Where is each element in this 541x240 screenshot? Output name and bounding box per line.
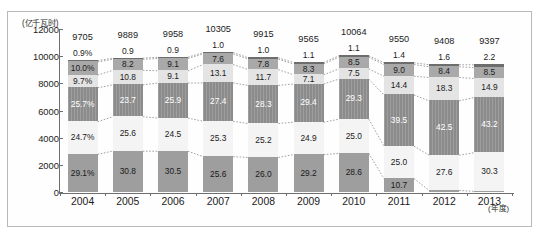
- bar-segment-label: 28.6: [346, 168, 362, 176]
- bar-segment-label: 10.0%: [71, 64, 95, 72]
- stacked-bar[interactable]: 8.210.823.725.630.8: [113, 58, 143, 192]
- bar-total-label: 9397: [461, 36, 517, 46]
- bar-segment-label: 9.0: [393, 66, 405, 74]
- bar-segment[interactable]: 9.0: [384, 64, 414, 76]
- bar-column[interactable]: 9.19.125.924.530.599580.9: [158, 29, 188, 192]
- bar-column[interactable]: 8.57.529.325.028.6100641.1: [339, 29, 369, 192]
- bar-segment-label: 7.5: [348, 69, 360, 77]
- x-tick-mark: [60, 193, 61, 196]
- bar-segment-label: 39.5: [391, 116, 407, 124]
- bar-segment[interactable]: 8.4: [429, 66, 459, 77]
- stacked-bar[interactable]: 8.57.529.325.028.6: [339, 55, 369, 192]
- bar-segment[interactable]: 9.1: [158, 70, 188, 82]
- bar-segment[interactable]: 10.0%: [68, 61, 98, 74]
- bar-segment[interactable]: 39.5: [384, 94, 414, 145]
- bar-segment[interactable]: 10.8: [113, 70, 143, 85]
- bar-segment[interactable]: 9.7%: [68, 75, 98, 88]
- bar-segment[interactable]: 8.5: [339, 57, 369, 69]
- x-tick-mark: [196, 193, 197, 196]
- bar-segment[interactable]: 24.7%: [68, 121, 98, 154]
- bar-segment[interactable]: [429, 190, 459, 192]
- bar-segment[interactable]: 8.3: [294, 64, 324, 75]
- bar-segment-label: 7.8: [258, 60, 270, 68]
- bar-segment[interactable]: 24.5: [158, 118, 188, 151]
- x-tick-mark: [512, 193, 513, 196]
- bar-segment-label: 10.8: [120, 73, 136, 81]
- bar-segment[interactable]: 28.3: [248, 85, 278, 123]
- bar-segment[interactable]: 25.6: [203, 156, 233, 192]
- bar-segment[interactable]: 9.1: [158, 58, 188, 70]
- bar-segment[interactable]: 27.6: [429, 155, 459, 190]
- bar-column[interactable]: 8.210.823.725.630.898890.9: [113, 29, 143, 192]
- bar-column[interactable]: 9.014.439.525.010.795501.4: [384, 29, 414, 192]
- bar-segment[interactable]: 30.5: [158, 151, 188, 192]
- bar-segment[interactable]: 14.4: [384, 76, 414, 95]
- bar-segment[interactable]: 11.7: [248, 69, 278, 85]
- bar-segment[interactable]: [474, 191, 504, 192]
- stacked-bar[interactable]: 8.514.943.230.3: [474, 64, 504, 192]
- bar-segment-label: 25.3: [210, 134, 226, 142]
- bar-segment[interactable]: 27.4: [203, 82, 233, 120]
- bar-segment[interactable]: 8.5: [474, 67, 504, 78]
- bar-segment-label: 25.9: [165, 96, 181, 104]
- bar-segment-label: 43.2: [481, 120, 497, 128]
- bar-segment[interactable]: 29.4: [294, 84, 324, 122]
- bar-segment[interactable]: 7.6: [203, 53, 233, 64]
- bar-segment[interactable]: 28.6: [339, 153, 369, 192]
- bar-segment[interactable]: 7.5: [339, 68, 369, 78]
- bar-segment-label: 27.6: [436, 168, 452, 176]
- bar-segment[interactable]: 13.1: [203, 64, 233, 82]
- stacked-bar[interactable]: 7.811.728.325.226.0: [248, 57, 278, 192]
- bar-segment[interactable]: 8.2: [113, 59, 143, 70]
- bar-segment[interactable]: 23.7: [113, 84, 143, 116]
- bar-segment[interactable]: 7.1: [294, 74, 324, 83]
- bar-segment[interactable]: 43.2: [474, 97, 504, 152]
- bar-column[interactable]: 8.514.943.230.393972.2: [474, 29, 504, 192]
- bar-column[interactable]: 8.418.342.527.694081.6: [429, 29, 459, 192]
- bar-segment[interactable]: 25.6: [113, 116, 143, 150]
- bar-segment-label: 18.3: [436, 84, 452, 92]
- bar-segment-label: 29.1%: [71, 169, 95, 177]
- bar-segment[interactable]: 25.7%: [68, 87, 98, 121]
- bar-segment-label: 27.4: [210, 97, 226, 105]
- bar-segment[interactable]: 24.9: [294, 122, 324, 154]
- stacked-bar[interactable]: 8.37.129.424.929.2: [294, 62, 324, 192]
- stacked-bar[interactable]: 8.418.342.527.6: [429, 64, 459, 192]
- bar-segment-label: 25.0: [346, 132, 362, 140]
- x-tick-label: 2011: [376, 196, 422, 207]
- bar-segment[interactable]: 10.7: [384, 178, 414, 192]
- stacked-bar[interactable]: 9.19.125.924.530.5: [158, 57, 188, 192]
- bar-segment-label: 7.1: [303, 75, 315, 83]
- bar-segment[interactable]: 18.3: [429, 77, 459, 100]
- x-tick-mark: [467, 193, 468, 196]
- bar-column[interactable]: 7.811.728.325.226.099151.0: [248, 29, 278, 192]
- bar-segment[interactable]: 29.2: [294, 154, 324, 192]
- bar-segment[interactable]: 30.3: [474, 152, 504, 191]
- bar-column[interactable]: 10.0%9.7%25.7%24.7%29.1%97050.9%: [68, 29, 98, 192]
- bar-segment[interactable]: 26.0: [248, 157, 278, 192]
- stacked-bar[interactable]: 10.0%9.7%25.7%24.7%29.1%: [68, 60, 98, 192]
- bar-column[interactable]: 7.613.127.425.325.6103051.0: [203, 29, 233, 192]
- stacked-bar[interactable]: 7.613.127.425.325.6: [203, 52, 233, 192]
- bar-segment-label: 25.6: [210, 170, 226, 178]
- bar-segment[interactable]: 25.3: [203, 121, 233, 156]
- y-axis: 120001000080006000400020000: [16, 29, 59, 193]
- x-tick-label: 2007: [195, 196, 241, 207]
- bar-column[interactable]: 8.37.129.424.929.295651.1: [294, 29, 324, 192]
- bar-segment[interactable]: 25.0: [339, 119, 369, 153]
- bar-segment[interactable]: 25.9: [158, 83, 188, 118]
- bar-segment-label: 23.7: [120, 96, 136, 104]
- bar-segment[interactable]: 30.8: [113, 151, 143, 192]
- bar-segment[interactable]: 25.0: [384, 146, 414, 178]
- x-tick-label: 2008: [240, 196, 286, 207]
- x-tick-mark: [286, 193, 287, 196]
- x-axis-labels: 2004200520062007200820092010201120122013…: [60, 196, 512, 216]
- stacked-bar[interactable]: 9.014.439.525.010.7: [384, 62, 414, 192]
- bar-segment[interactable]: 25.2: [248, 123, 278, 157]
- bar-segment[interactable]: 29.3: [339, 79, 369, 119]
- bar-segment[interactable]: 42.5: [429, 100, 459, 154]
- bar-segment[interactable]: 29.1%: [68, 154, 98, 192]
- bar-segment[interactable]: 14.9: [474, 78, 504, 97]
- bar-segment-label: 9.7%: [73, 77, 92, 85]
- bar-segment[interactable]: 7.8: [248, 59, 278, 70]
